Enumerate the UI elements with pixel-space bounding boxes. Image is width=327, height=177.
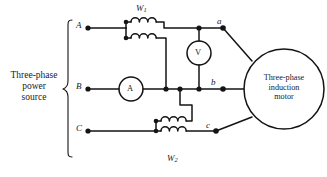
motor-label-line2: induction: [244, 83, 324, 93]
node-w2-potential-coil-polarity: [154, 119, 159, 124]
w1-potential-coil: [131, 34, 156, 38]
wattmeter-label-w1-letter: W: [136, 3, 144, 13]
wattmeter-label-w2-subscript: 2: [175, 156, 178, 163]
motor-label-line1: Three-phase: [244, 73, 324, 83]
wire-terminal-a-to-motor: [223, 28, 252, 61]
wattmeter-label-w1: W1: [136, 3, 147, 14]
source-label-line3: source: [4, 92, 64, 103]
node-terminal-c: [213, 128, 219, 134]
motor-label-line3: motor: [244, 92, 324, 102]
node-bus-voltmeter: [196, 86, 201, 91]
node-w1-current-coil-polarity: [124, 20, 129, 25]
node-terminal-C: [85, 128, 90, 133]
w2-current-coil: [161, 127, 186, 131]
motor-label: Three-phase induction motor: [244, 73, 324, 102]
motor-terminal-label-b: b: [211, 77, 216, 88]
source-label-line1: Three-phase: [4, 70, 64, 81]
wire-terminal-c-to-motor: [216, 117, 252, 131]
wattmeter-label-w2: W2: [167, 153, 178, 164]
node-terminal-B: [85, 86, 90, 91]
w1-current-coil: [131, 18, 156, 22]
voltmeter-label: V: [195, 47, 201, 57]
node-terminal-A: [85, 25, 90, 30]
wattmeter-label-w2-letter: W: [167, 153, 175, 163]
node-w1-potential-coil-polarity: [124, 36, 129, 41]
ammeter-label: A: [127, 83, 133, 93]
circuit-diagram-figure: Three-phase power source A B C a b c W1 …: [0, 0, 327, 177]
node-bus-w2-potential: [177, 86, 182, 91]
wire-w1-to-terminal-a: [156, 22, 223, 28]
source-label: Three-phase power source: [4, 70, 64, 104]
node-terminal-b: [220, 86, 226, 92]
supply-terminal-label-B: B: [76, 81, 82, 92]
motor-terminal-label-c: c: [206, 120, 210, 131]
node-voltmeter-tap-a-line: [196, 25, 201, 30]
source-brace: [63, 20, 72, 157]
node-bus-w1-potential: [163, 86, 168, 91]
supply-terminal-label-A: A: [76, 20, 82, 31]
wattmeter-label-w1-subscript: 1: [144, 6, 147, 13]
w2-potential-coil: [161, 117, 186, 121]
source-label-line2: power: [4, 81, 64, 92]
supply-terminal-label-C: C: [76, 123, 82, 134]
node-w2-current-coil-polarity: [154, 129, 159, 134]
wire-w1-potential-to-b-bus: [156, 38, 166, 89]
motor-terminal-label-a: a: [217, 16, 222, 27]
